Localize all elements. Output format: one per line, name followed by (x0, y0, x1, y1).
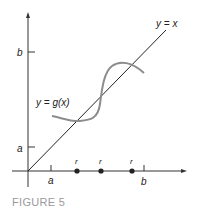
x-tick-a-label: a (48, 175, 54, 186)
y-axis-arrow-icon (26, 12, 30, 18)
g-curve-label: y = g(x) (35, 97, 70, 108)
figure-caption: FIGURE 5 (12, 196, 65, 208)
root-label-1: r (75, 157, 78, 166)
y-tick-b-label: b (17, 47, 23, 58)
root-label-2: r (99, 157, 102, 166)
g-curve (52, 63, 144, 121)
fixed-point-diagram: b a a b y = x y = g(x) r r r (0, 0, 197, 215)
root-point-1 (74, 168, 79, 173)
x-tick-b-label: b (141, 176, 147, 187)
x-axis-arrow-icon (181, 169, 187, 173)
identity-line-label: y = x (155, 18, 178, 29)
y-tick-a-label: a (17, 143, 23, 154)
root-label-3: r (130, 157, 133, 166)
root-point-3 (129, 168, 134, 173)
root-point-2 (98, 168, 103, 173)
